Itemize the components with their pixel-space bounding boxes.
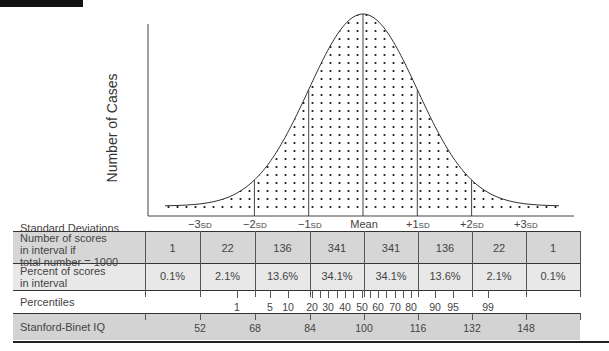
percentile-tick: 99 [482, 301, 494, 313]
percentile-tick-mark [288, 290, 289, 298]
percentile-tick: 50 [356, 301, 368, 313]
table-column-line [255, 231, 256, 297]
iq-tick: 68 [249, 322, 261, 334]
percentile-tick-mark [411, 290, 412, 298]
percentile-tick-mark [237, 290, 238, 298]
iq-tick-mark [200, 313, 201, 320]
percent-cell: 34.1% [364, 270, 418, 282]
iq-tick-mark [580, 313, 581, 320]
percentile-tick-mark [453, 290, 454, 298]
percentile-tick-mark [353, 290, 354, 298]
percent-cell: 2.1% [472, 270, 526, 282]
percent-cell: 34.1% [310, 270, 364, 282]
iq-tick: 84 [304, 322, 316, 334]
percentile-tick-mark [403, 290, 404, 298]
iq-tick-mark [255, 313, 256, 320]
scores-cell: 341 [364, 242, 418, 254]
iq-tick: 116 [410, 322, 427, 334]
row-percentiles-label: Percentiles [20, 296, 74, 308]
percentile-tick: 5 [267, 301, 273, 313]
percentile-tick-mark [345, 290, 346, 298]
percentile-tick-mark [370, 290, 371, 298]
iq-tick: 148 [517, 322, 535, 334]
sd-label-minus1: −1SD [298, 218, 322, 230]
percentile-tick-mark [488, 290, 489, 298]
iq-tick-mark [364, 313, 365, 320]
bell-curve-chart [0, 0, 609, 230]
percentile-tick-mark [362, 290, 363, 298]
percentile-tick-mark [312, 290, 313, 298]
percentile-tick-mark [386, 290, 387, 298]
scores-cell: 341 [310, 242, 364, 254]
scores-cell: 1 [145, 242, 200, 254]
iq-tick-mark [145, 313, 146, 320]
table-column-line [526, 231, 527, 297]
y-axis-label: Number of Cases [104, 68, 120, 188]
percent-cell: 13.6% [418, 270, 472, 282]
sd-label-minus3: −3SD [188, 218, 212, 230]
iq-tick: 52 [194, 322, 206, 334]
iq-tick-mark [526, 313, 527, 320]
row-percent-label: Percent of scores in interval [20, 265, 106, 289]
percentile-tick-mark [320, 290, 321, 298]
sd-label-plus3: +3SD [514, 218, 538, 230]
table-column-line [200, 231, 201, 297]
percentile-tick: 70 [389, 301, 401, 313]
percentile-tick: 40 [339, 301, 351, 313]
table-column-line [418, 231, 419, 297]
percent-cell: 13.6% [255, 270, 310, 282]
percent-cell: 0.1% [145, 270, 200, 282]
table-rule-bottom [13, 341, 609, 343]
percent-cell: 2.1% [200, 270, 255, 282]
sd-label-plus1: +1SD [406, 218, 430, 230]
percentile-tick: 60 [372, 301, 384, 313]
percentile-tick: 30 [322, 301, 334, 313]
percentile-tick-mark [270, 290, 271, 298]
percentile-tick: 1 [234, 301, 240, 313]
table-rule-3 [13, 313, 580, 314]
percentile-tick: 80 [405, 301, 417, 313]
iq-tick: 100 [355, 322, 373, 334]
percentile-tick-mark [328, 290, 329, 298]
sd-label-plus2: +2SD [460, 218, 484, 230]
percent-cell: 0.1% [526, 270, 580, 282]
row-scores-label: Number of scores in interval if total nu… [20, 232, 118, 268]
percentile-tick: 10 [282, 301, 294, 313]
iq-tick-mark [472, 313, 473, 320]
sd-label-mean: Mean [350, 218, 378, 230]
scores-cell: 136 [418, 242, 472, 254]
iq-tick: 132 [463, 322, 481, 334]
percentile-tick-mark [395, 290, 396, 298]
row-iq-label: Stanford-Binet IQ [20, 321, 105, 333]
scores-cell: 22 [200, 242, 255, 254]
table-column-line [472, 231, 473, 297]
sd-label-minus2: −2SD [243, 218, 267, 230]
percentile-tick: 95 [447, 301, 459, 313]
percentile-tick-mark [435, 290, 436, 298]
table-column-line [364, 231, 365, 297]
table-column-line [310, 231, 311, 297]
scores-cell: 22 [472, 242, 526, 254]
scores-cell: 1 [526, 242, 580, 254]
percentile-tick-mark [337, 290, 338, 298]
table-rule-2 [13, 290, 580, 291]
percentile-tick-mark [378, 290, 379, 298]
percentile-tick: 90 [429, 301, 441, 313]
iq-tick-mark [310, 313, 311, 320]
percentile-tick: 20 [306, 301, 318, 313]
table-column-line [145, 231, 146, 297]
scores-cell: 136 [255, 242, 310, 254]
table-column-line [580, 231, 581, 297]
iq-tick-mark [418, 313, 419, 320]
